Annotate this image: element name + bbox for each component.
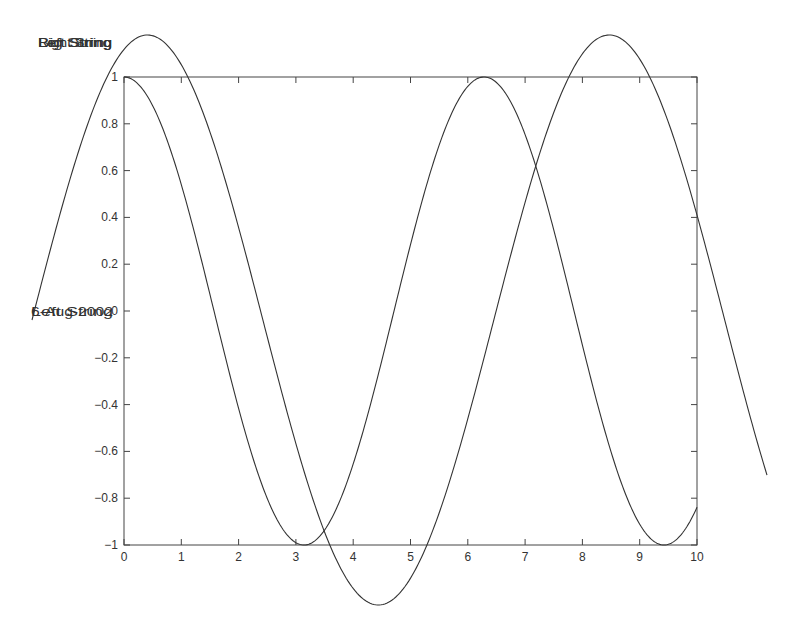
y-tick-label: 0.4 — [101, 210, 118, 224]
annotation-text: Left String — [31, 305, 113, 319]
x-tick-label: 4 — [350, 550, 357, 564]
y-tick-label: −0.6 — [94, 444, 118, 458]
annotation-mid-left: 6-Aug-2002Left String — [31, 305, 113, 319]
y-tick-label: −0.2 — [94, 351, 118, 365]
x-tick-label: 2 — [235, 550, 242, 564]
annotation-top-left: Right StringLeft StringBig String — [38, 36, 112, 50]
line-chart: 012345678910 10.80.60.40.20−0.2−0.4−0.6−… — [0, 0, 794, 627]
series-cos-line — [124, 77, 697, 545]
y-tick-label: −0.8 — [94, 491, 118, 505]
y-tick-label: 1 — [111, 70, 118, 84]
x-axis-ticks: 012345678910 — [121, 77, 704, 564]
y-tick-label: −1 — [104, 538, 118, 552]
y-tick-label: 0.2 — [101, 257, 118, 271]
y-axis-ticks: 10.80.60.40.20−0.2−0.4−0.6−0.8−1 — [94, 70, 697, 552]
x-tick-label: 7 — [522, 550, 529, 564]
x-tick-label: 9 — [636, 550, 643, 564]
axes-frame — [124, 77, 697, 545]
x-tick-label: 5 — [407, 550, 414, 564]
series-sin-line — [32, 35, 767, 605]
x-tick-label: 0 — [121, 550, 128, 564]
y-tick-label: −0.4 — [94, 398, 118, 412]
x-tick-label: 10 — [690, 550, 704, 564]
y-tick-label: 0.6 — [101, 164, 118, 178]
x-tick-label: 6 — [464, 550, 471, 564]
annotation-text: Big String — [38, 36, 112, 50]
x-tick-label: 1 — [178, 550, 185, 564]
x-tick-label: 3 — [293, 550, 300, 564]
y-tick-label: 0.8 — [101, 117, 118, 131]
axes-box — [124, 77, 697, 545]
x-tick-label: 8 — [579, 550, 586, 564]
